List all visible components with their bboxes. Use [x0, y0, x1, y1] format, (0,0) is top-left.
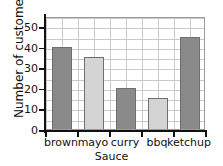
plot-area — [45, 17, 205, 130]
x-axis-title: Sauce — [0, 150, 223, 163]
y-tick — [39, 27, 45, 29]
y-tick — [39, 89, 45, 91]
x-tick-label-ketchup: ketchup — [159, 137, 219, 149]
y-axis-title: Number of customers — [12, 0, 26, 118]
bar-chart-figure: ...answers are shown on the bar chart. N… — [0, 0, 223, 166]
heading-text: ...answers are shown on the bar chart. — [4, 0, 223, 3]
y-tick-label: 40 — [14, 43, 38, 54]
y-tick-label: 30 — [14, 63, 38, 74]
y-tick — [39, 68, 45, 70]
y-tick — [39, 109, 45, 111]
bar-curry — [116, 88, 136, 129]
bar-bbq — [148, 98, 168, 129]
y-tick — [39, 48, 45, 50]
bar-ketchup — [180, 37, 200, 129]
bar-mayo — [84, 57, 104, 129]
y-axis-line — [44, 14, 46, 133]
y-tick-label: 20 — [14, 84, 38, 95]
x-axis-line — [44, 130, 207, 132]
bar-series — [46, 18, 204, 129]
bar-brown — [52, 47, 72, 129]
y-tick-label: 50 — [14, 22, 38, 33]
y-tick-label: 0 — [14, 125, 38, 136]
y-tick-label: 10 — [14, 104, 38, 115]
